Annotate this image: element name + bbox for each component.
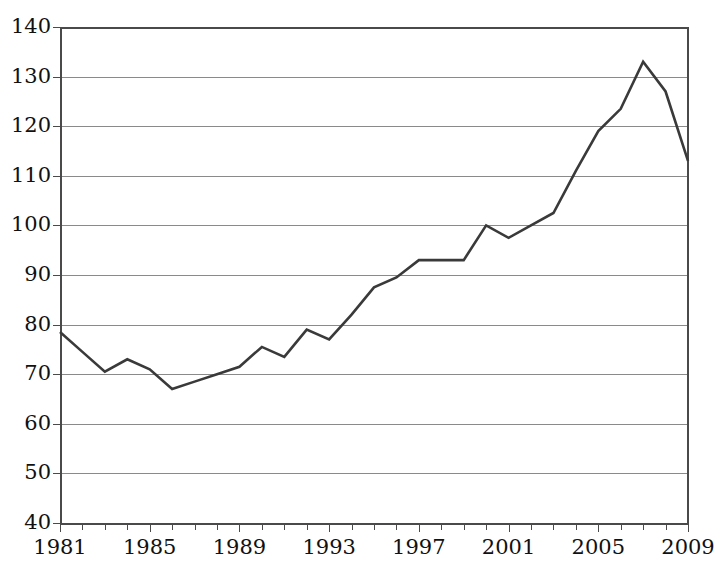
axis-ticks xyxy=(53,28,689,533)
x-axis-label-2005: 2005 xyxy=(563,537,633,558)
y-axis-label-130: 130 xyxy=(5,66,51,87)
gridlines xyxy=(60,28,688,474)
y-axis-label-120: 120 xyxy=(5,115,51,136)
y-axis-label-60: 60 xyxy=(5,413,51,434)
y-axis-label-110: 110 xyxy=(5,165,51,186)
y-axis-label-40: 40 xyxy=(5,512,51,533)
line-chart: 405060708090100110120130140 198119851989… xyxy=(0,0,725,583)
y-axis-label-80: 80 xyxy=(5,314,51,335)
x-axis-label-2001: 2001 xyxy=(474,537,544,558)
chart-plot-area xyxy=(0,0,725,583)
x-axis-label-1989: 1989 xyxy=(204,537,274,558)
x-axis-label-1985: 1985 xyxy=(115,537,185,558)
y-axis-label-140: 140 xyxy=(5,16,51,37)
y-axis-label-90: 90 xyxy=(5,264,51,285)
y-axis-label-50: 50 xyxy=(5,462,51,483)
x-axis-label-1997: 1997 xyxy=(384,537,454,558)
y-axis-label-100: 100 xyxy=(5,214,51,235)
x-axis-label-1981: 1981 xyxy=(25,537,95,558)
y-axis-label-70: 70 xyxy=(5,363,51,384)
x-axis-label-1993: 1993 xyxy=(294,537,364,558)
x-axis-label-2009: 2009 xyxy=(653,537,723,558)
